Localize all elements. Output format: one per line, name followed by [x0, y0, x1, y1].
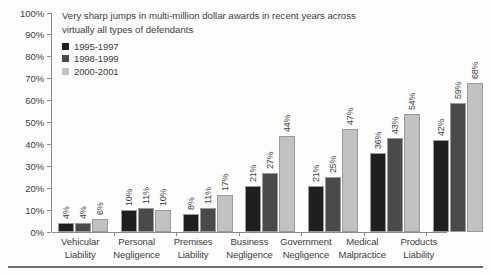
- bar-container[interactable]: 36%: [370, 13, 386, 232]
- x-axis-category-label: BusinessNegligence: [221, 236, 277, 261]
- bar-container[interactable]: 11%: [138, 13, 154, 232]
- bar[interactable]: [370, 153, 386, 232]
- bar[interactable]: [467, 83, 483, 232]
- y-axis-tick-mark: [47, 188, 51, 189]
- bar[interactable]: [183, 214, 199, 232]
- y-axis-tick-mark: [47, 100, 51, 101]
- bar[interactable]: [387, 138, 403, 232]
- x-axis-category-label: MedicalMalpractice: [334, 236, 390, 261]
- y-axis-tick-label: 50%: [25, 117, 47, 128]
- bar-value-label: 10%: [123, 189, 133, 206]
- bar-group: 8%11%17%: [177, 13, 239, 232]
- y-axis-tick-mark: [47, 232, 51, 233]
- bar[interactable]: [433, 140, 449, 232]
- y-axis-tick-mark: [47, 210, 51, 211]
- bar-container[interactable]: 44%: [279, 13, 295, 232]
- bar-container[interactable]: 43%: [387, 13, 403, 232]
- bar-value-label: 27%: [265, 151, 275, 168]
- bar[interactable]: [138, 208, 154, 232]
- bar-group: 36%43%54%: [364, 13, 426, 232]
- bar[interactable]: [262, 173, 278, 232]
- bar[interactable]: [245, 186, 261, 232]
- bar-container[interactable]: 8%: [183, 13, 199, 232]
- bar-container[interactable]: 10%: [121, 13, 137, 232]
- bar-value-label: 11%: [140, 187, 150, 204]
- bar-value-label: 47%: [344, 108, 354, 125]
- bar-container[interactable]: 59%: [450, 13, 466, 232]
- bar-container[interactable]: 6%: [92, 13, 108, 232]
- y-axis-tick-label: 30%: [25, 160, 47, 171]
- y-axis-tick-mark: [47, 56, 51, 57]
- bar-value-label: 44%: [282, 114, 292, 131]
- plot-area: 4%4%6%10%11%10%8%11%17%21%27%44%21%25%47…: [52, 13, 489, 232]
- bar-container[interactable]: 21%: [308, 13, 324, 232]
- y-axis-tick-mark: [47, 13, 51, 14]
- bar-value-label: 17%: [220, 173, 230, 190]
- bar-container[interactable]: 4%: [75, 13, 91, 232]
- y-axis-tick-label: 60%: [25, 95, 47, 106]
- bar-value-label: 4%: [78, 207, 88, 220]
- bar[interactable]: [75, 223, 91, 232]
- bar[interactable]: [450, 103, 466, 232]
- bar-value-label: 11%: [203, 187, 213, 204]
- bar-value-label: 21%: [310, 165, 320, 182]
- bar[interactable]: [58, 223, 74, 232]
- bar[interactable]: [200, 208, 216, 232]
- bar-value-label: 43%: [390, 116, 400, 133]
- bar[interactable]: [121, 210, 137, 232]
- bar-value-label: 6%: [95, 202, 105, 215]
- bar[interactable]: [279, 136, 295, 232]
- bar-container[interactable]: 17%: [217, 13, 233, 232]
- bar-value-label: 54%: [407, 92, 417, 109]
- y-axis-tick-label: 70%: [25, 73, 47, 84]
- bar-group: 10%11%10%: [114, 13, 176, 232]
- bar[interactable]: [308, 186, 324, 232]
- bar-container[interactable]: 54%: [404, 13, 420, 232]
- bar-container[interactable]: 21%: [245, 13, 261, 232]
- bar[interactable]: [217, 195, 233, 232]
- bar-value-label: 21%: [248, 165, 258, 182]
- bar-container[interactable]: 10%: [155, 13, 171, 232]
- x-axis-category-label: PremisesLiability: [165, 236, 221, 261]
- bar-group: 4%4%6%: [52, 13, 114, 232]
- bar-container[interactable]: 42%: [433, 13, 449, 232]
- x-axis-labels: VehicularLiabilityPersonalNegligencePrem…: [52, 236, 447, 261]
- bar-value-label: 25%: [327, 156, 337, 173]
- bar-value-label: 10%: [157, 189, 167, 206]
- bar-group: 42%59%68%: [427, 13, 489, 232]
- bar[interactable]: [155, 210, 171, 232]
- x-axis-category-label: ProductsLiability: [391, 236, 447, 261]
- y-axis-tick-mark: [47, 144, 51, 145]
- bar-container[interactable]: 47%: [342, 13, 358, 232]
- bar-container[interactable]: 4%: [58, 13, 74, 232]
- y-axis-tick-label: 90%: [25, 29, 47, 40]
- y-axis-tick-mark: [47, 166, 51, 167]
- bar[interactable]: [404, 114, 420, 232]
- x-axis-category-label: PersonalNegligence: [108, 236, 164, 261]
- bar-container[interactable]: 68%: [467, 13, 483, 232]
- bar[interactable]: [92, 219, 108, 232]
- bottom-divider: [8, 266, 483, 268]
- x-axis-category-label: VehicularLiability: [52, 236, 108, 261]
- bar-value-label: 59%: [452, 81, 462, 98]
- bar-value-label: 8%: [186, 198, 196, 211]
- bar-group: 21%27%44%: [239, 13, 301, 232]
- y-axis-tick-label: 10%: [25, 204, 47, 215]
- bar[interactable]: [325, 177, 341, 232]
- y-axis-tick-label: 0%: [30, 226, 47, 237]
- y-axis-tick-mark: [47, 78, 51, 79]
- bar-value-label: 68%: [469, 62, 479, 79]
- bar-value-label: 42%: [435, 119, 445, 136]
- bar-value-label: 36%: [373, 132, 383, 149]
- x-axis-baseline: [52, 232, 447, 233]
- bar-group: 21%25%47%: [302, 13, 364, 232]
- bar-container[interactable]: 25%: [325, 13, 341, 232]
- bar-container[interactable]: 11%: [200, 13, 216, 232]
- y-axis-tick-mark: [47, 34, 51, 35]
- y-axis-tick-label: 100%: [20, 7, 47, 18]
- y-axis-tick-label: 80%: [25, 51, 47, 62]
- y-axis-tick-label: 20%: [25, 182, 47, 193]
- bar-chart: 100%90%80%70%60%50%40%30%20%10%0% Very s…: [0, 0, 491, 275]
- bar[interactable]: [342, 129, 358, 232]
- bar-container[interactable]: 27%: [262, 13, 278, 232]
